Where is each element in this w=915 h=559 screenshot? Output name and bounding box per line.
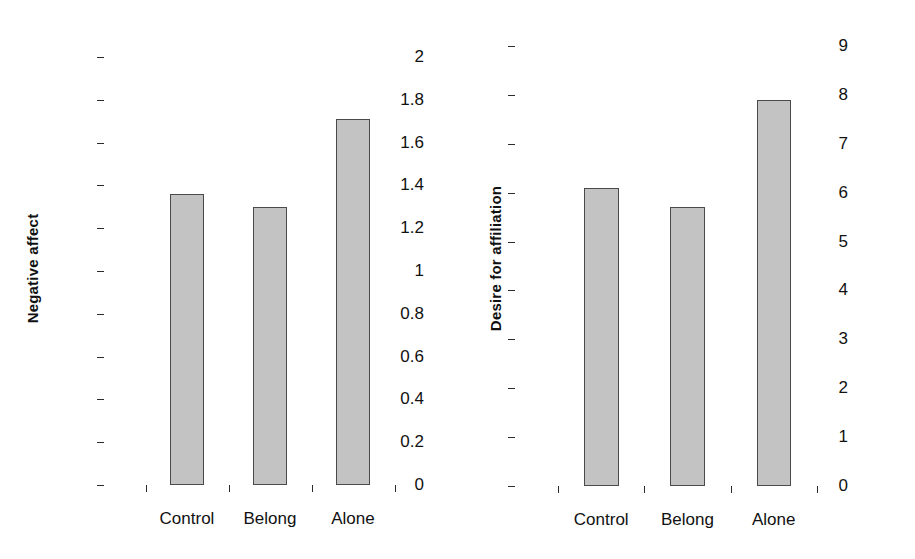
y-axis-tick-label-left: 1.4: [400, 175, 424, 195]
y-axis-tick-right: [508, 46, 515, 47]
bar-alone: [757, 100, 792, 486]
figure: Negative affect 00.20.40.60.811.21.41.61…: [0, 0, 915, 559]
y-axis-tick-left: [97, 442, 104, 443]
y-axis-tick-label-right: 9: [839, 36, 848, 56]
x-axis-tick-right: [558, 486, 559, 493]
y-axis-tick-label-left: 0.6: [400, 347, 424, 367]
x-axis-tick-right: [644, 486, 645, 493]
y-axis-tick-left: [97, 228, 104, 229]
x-axis-category-label-alone: Alone: [331, 509, 374, 529]
x-axis-tick-right: [817, 486, 818, 493]
y-axis-tick-left: [97, 271, 104, 272]
x-axis-category-label-belong: Belong: [661, 510, 714, 530]
y-axis-tick-right: [508, 242, 515, 243]
y-axis-tick-left: [97, 57, 104, 58]
y-axis-tick-label-left: 0.4: [400, 389, 424, 409]
y-axis-tick-left: [97, 357, 104, 358]
chart-panel-negative-affect: Negative affect 00.20.40.60.811.21.41.61…: [0, 0, 455, 559]
x-axis-tick-left: [229, 485, 230, 492]
y-axis-tick-left: [97, 399, 104, 400]
x-axis-category-label-belong: Belong: [244, 509, 297, 529]
y-axis-tick-label-left: 1.2: [400, 218, 424, 238]
y-axis-tick-label-left: 1: [415, 261, 424, 281]
y-axis-tick-label-left: 0.8: [400, 304, 424, 324]
bar-belong: [253, 207, 286, 485]
x-axis-tick-left: [312, 485, 313, 492]
plot-area-left: 00.20.40.60.811.21.41.61.82ControlBelong…: [104, 57, 436, 485]
y-axis-tick-label-left: 2: [415, 47, 424, 67]
y-axis-tick-label-right: 8: [839, 85, 848, 105]
y-axis-tick-label-right: 6: [839, 183, 848, 203]
y-axis-tick-right: [508, 193, 515, 194]
y-axis-tick-right: [508, 388, 515, 389]
y-axis-tick-left: [97, 485, 104, 486]
y-axis-tick-label-left: 0: [415, 475, 424, 495]
y-axis-tick-label-right: 4: [839, 280, 848, 300]
plot-area-right: 0123456789ControlBelongAlone: [515, 46, 860, 486]
y-axis-tick-right: [508, 437, 515, 438]
y-axis-tick-left: [97, 185, 104, 186]
y-axis-tick-right: [508, 95, 515, 96]
y-axis-tick-label-right: 7: [839, 134, 848, 154]
y-axis-tick-label-right: 5: [839, 232, 848, 252]
bar-control: [584, 188, 619, 486]
bar-alone: [336, 119, 369, 485]
y-axis-tick-left: [97, 143, 104, 144]
x-axis-tick-left: [395, 485, 396, 492]
x-axis-category-label-control: Control: [160, 509, 215, 529]
bar-belong: [670, 207, 705, 486]
x-axis-category-label-control: Control: [574, 510, 629, 530]
y-axis-tick-label-right: 2: [839, 378, 848, 398]
y-axis-title-right: Desire for affiliation: [487, 159, 504, 359]
chart-panel-desire-for-affiliation: Desire for affiliation 0123456789Control…: [455, 0, 915, 559]
x-axis-category-label-alone: Alone: [752, 510, 795, 530]
y-axis-tick-label-right: 1: [839, 427, 848, 447]
y-axis-tick-label-right: 3: [839, 329, 848, 349]
x-axis-tick-left: [146, 485, 147, 492]
y-axis-tick-right: [508, 486, 515, 487]
bar-control: [170, 194, 203, 485]
y-axis-tick-right: [508, 144, 515, 145]
y-axis-tick-label-left: 0.2: [400, 432, 424, 452]
y-axis-tick-label-right: 0: [839, 476, 848, 496]
y-axis-tick-label-left: 1.8: [400, 90, 424, 110]
y-axis-tick-label-left: 1.6: [400, 133, 424, 153]
y-axis-title-left: Negative affect: [24, 174, 41, 364]
y-axis-tick-left: [97, 100, 104, 101]
y-axis-tick-left: [97, 314, 104, 315]
x-axis-tick-right: [731, 486, 732, 493]
y-axis-tick-right: [508, 290, 515, 291]
y-axis-tick-right: [508, 339, 515, 340]
